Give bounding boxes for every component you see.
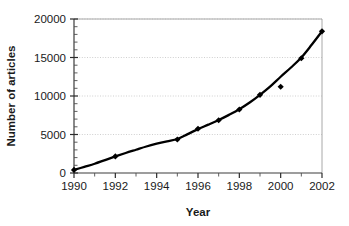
y-tick-label-0: 0 [60,167,66,179]
chart-background [0,0,349,226]
y-tick-label-15000: 15000 [34,52,66,64]
x-tick-label-1994: 1994 [144,180,170,192]
chart-container: 05000100001500020000 1990199219941996199… [0,0,349,226]
number-of-articles-by-year-chart: 05000100001500020000 1990199219941996199… [0,0,349,226]
y-tick-label-20000: 20000 [34,13,66,25]
x-tick-label-1990: 1990 [61,180,87,192]
x-tick-label-2002: 2002 [309,180,335,192]
x-tick-label-1998: 1998 [227,180,253,192]
x-tick-label-1996: 1996 [185,180,211,192]
y-tick-label-10000: 10000 [34,90,66,102]
x-axis-title: Year [186,206,211,218]
x-tick-label-2000: 2000 [268,180,294,192]
y-tick-label-5000: 5000 [40,129,66,141]
y-axis-title: Number of articles [5,46,17,147]
x-tick-label-1992: 1992 [103,180,129,192]
